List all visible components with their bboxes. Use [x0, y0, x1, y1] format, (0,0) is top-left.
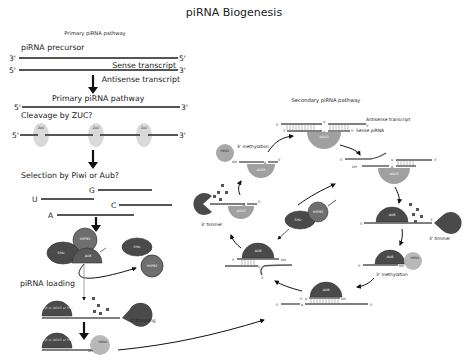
base-pairs	[311, 299, 338, 303]
ago3-label: AGO3	[256, 168, 265, 172]
pirna-precursor-label: piRNA precursor	[21, 43, 85, 52]
base-label: G	[89, 186, 95, 195]
antisense-transcript-label: Antisense transcript	[102, 75, 180, 84]
end-label: 5'	[232, 258, 235, 262]
aub-label: AUB	[323, 288, 330, 292]
aub-cleavage-complex: AUB 5' OH 5' 3'	[225, 243, 292, 280]
hen1-label: HEN1	[221, 149, 230, 153]
cycle-arrow	[268, 136, 293, 152]
release-arrow	[79, 264, 136, 278]
shu-label: SHU	[134, 245, 141, 249]
methylation-label: 3' methylation	[237, 144, 269, 149]
hsp83-line	[328, 200, 336, 206]
shu-label: SHU	[58, 251, 65, 255]
cycle-arrow	[231, 235, 241, 248]
end-label: 5'	[258, 200, 261, 204]
down-arrow-head	[79, 333, 89, 340]
zuc-label: ZUC	[93, 126, 101, 130]
cycle-arrow	[395, 187, 399, 203]
aub-trimming-complex: AUB 5' 3' 3' timmer	[360, 203, 462, 241]
sense-transcript-label: Sense transcript	[112, 61, 176, 70]
zuc-label: ZUC	[141, 126, 149, 130]
hen1-label: HEN1	[411, 256, 420, 260]
cleaved-end	[370, 153, 386, 159]
zuc-label: ZUC	[38, 126, 46, 130]
oh-label: OH	[232, 160, 238, 164]
end-label: 5'	[14, 103, 21, 112]
u-label: U	[391, 158, 394, 162]
end-label: 5'	[9, 66, 16, 75]
end-label: 3'	[181, 103, 188, 112]
aub-bottom-complex: AUB 5' U OH 5' A 5'	[276, 282, 373, 307]
aub-label: AUB	[255, 249, 262, 253]
cycle-arrow	[400, 229, 402, 245]
end-label: 3'	[283, 129, 286, 133]
trimmer-label: 3' timmer	[429, 236, 451, 241]
ago3-label: AGO3	[389, 172, 398, 176]
u-label: U	[305, 297, 308, 301]
shu-label: SHU	[295, 218, 302, 222]
end-label: 5'	[340, 158, 343, 162]
oh-label: OH	[399, 264, 405, 268]
end-label: 5'	[370, 303, 373, 307]
strand	[264, 265, 292, 266]
oh-label: OH	[281, 258, 287, 262]
end-label: 5'	[360, 222, 363, 226]
u-label: U	[323, 120, 326, 124]
end-label: 3'	[179, 131, 186, 140]
nucleotide-debris	[92, 297, 109, 315]
nucleotide-debris	[409, 203, 423, 223]
aub-label: AUB	[85, 254, 92, 258]
trimmer-pacman	[120, 301, 154, 330]
end-label: 3'	[430, 218, 433, 222]
trimmer-pacman	[193, 193, 212, 215]
down-arrow-head	[88, 162, 98, 169]
diagram-title: piRNA Biogenesis	[186, 6, 283, 19]
ago3-methylation-complex: HEN1 OH A 5' AGO3 3' methylation	[216, 144, 281, 178]
loading-complex: HSP83 SHU AUB	[47, 228, 106, 264]
end-label: 5'	[276, 123, 279, 127]
oh-label: OH	[88, 349, 94, 353]
aub-label: AUB	[389, 213, 396, 217]
base-label: U	[32, 195, 38, 204]
antisense-transcript-label: Antisense transcript	[366, 117, 410, 122]
piwi-complex-label: AUB or AGO3 or Piwi	[41, 338, 74, 342]
sense-pirna-label: Sense piRNA	[356, 128, 384, 133]
end-label: 3'	[9, 54, 16, 63]
hsp83-label: HSP83	[313, 210, 323, 214]
ago3-cleaved-complex: 5' U 3' OH A AGO3	[340, 153, 437, 184]
hen1-label: HEN1	[99, 340, 108, 344]
end-label: 3'	[434, 158, 437, 162]
end-label: 5'	[278, 158, 281, 162]
cycle-arrow	[357, 278, 374, 287]
ago3-label: AGO3	[319, 135, 328, 139]
end-label: 5'	[300, 297, 303, 301]
end-label: 5'	[276, 303, 279, 307]
ago3-protein	[378, 168, 410, 184]
pirna-loading-label: piRNA loading	[20, 279, 75, 288]
pirna-biogenesis-diagram: piRNA Biogenesis Primary piRNA pathway p…	[0, 0, 468, 362]
ago3-cleavage-complex: 5' U 3' Antisense transcript 3' A 5' Sen…	[276, 117, 410, 149]
end-label: 3'	[261, 276, 264, 280]
trimming-label: 3' trimming	[130, 318, 156, 323]
base-label: A	[48, 211, 54, 220]
end-label: 5'	[358, 264, 361, 268]
primary-pathway-label: Primary piRNA pathway	[52, 94, 145, 103]
end-label: 5'	[258, 265, 261, 269]
a-label: A	[301, 303, 304, 307]
secondary-pathway-heading: Secondary piRNA pathway	[292, 97, 361, 104]
piwi-complex-label: AUB or AGO3 or Piwi	[41, 306, 74, 310]
selection-label: Selection by Piwi or Aub?	[21, 171, 119, 180]
ago3-trimming-complex: 3' timmer A 5' AGO3	[193, 184, 261, 227]
end-label: 5'	[351, 129, 354, 133]
primary-pathway-heading: Primary piRNA pathway	[64, 30, 125, 37]
cleavage-label: Cleavage by ZUC?	[21, 111, 92, 120]
oh-label: OH	[341, 297, 347, 301]
trimmer-pacman	[434, 212, 462, 234]
shu-arrow	[278, 229, 289, 239]
end-label: 5'	[179, 54, 186, 63]
hsp83-label: HSP83	[147, 264, 157, 268]
cycle-arrow	[239, 181, 241, 195]
nucleotide-debris	[213, 184, 228, 201]
zuc-cleavage-row: ZUC ZUC ZUC 5' 3'	[12, 123, 186, 147]
